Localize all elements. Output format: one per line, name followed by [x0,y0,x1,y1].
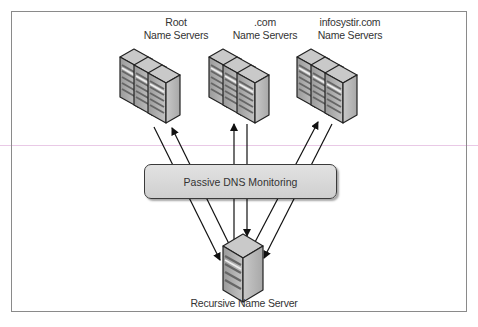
com-cluster-label: .com Name Servers [233,16,298,42]
recursive-server-icon [223,234,263,302]
infosystir-label-line1: infosystir.com [318,16,383,29]
root-label-line2: Name Servers [144,29,209,42]
monitor-label: Passive DNS Monitoring [184,176,298,188]
infosystir-label-line2: Name Servers [318,29,383,42]
recursive-server-label: Recursive Name Server [190,297,297,310]
root-label-line1: Root [144,16,209,29]
passive-dns-monitoring-box: Passive DNS Monitoring [144,164,337,199]
root-cluster-label: Root Name Servers [144,16,209,42]
com-label-line2: Name Servers [233,29,298,42]
com-label-line1: .com [233,16,298,29]
infosystir-cluster-label: infosystir.com Name Servers [318,16,383,42]
com-server-cluster-icon [209,49,269,123]
infosystir-server-cluster-icon [297,49,357,123]
root-server-cluster-icon [120,49,180,123]
